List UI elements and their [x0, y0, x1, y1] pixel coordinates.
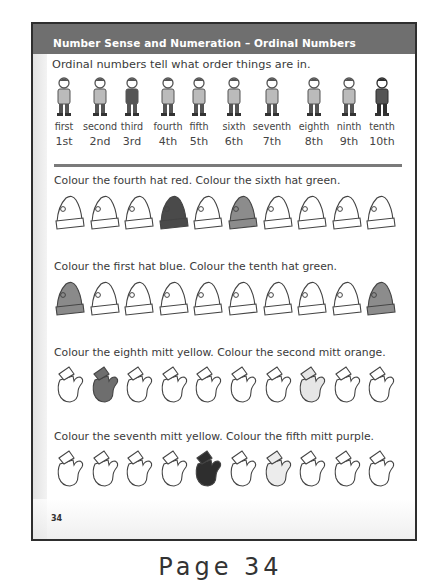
page-bottom-shade [33, 499, 415, 539]
hat-icon[interactable] [227, 194, 259, 232]
ordinal-item: fifth5th [181, 76, 217, 148]
mitt-icon[interactable] [123, 448, 155, 486]
plumber-icon [186, 76, 212, 118]
hat-icon[interactable] [192, 194, 224, 232]
ordinal-word: first [46, 121, 82, 132]
teacher-icon [119, 76, 145, 118]
mitt-icon[interactable] [192, 364, 224, 402]
mitt-row-2 [54, 448, 400, 488]
mechanic-icon [155, 76, 181, 118]
hat-icon[interactable] [158, 194, 190, 232]
instruction-2: Colour the first hat blue. Colour the te… [54, 260, 337, 273]
hat-row-1 [54, 194, 400, 234]
mitt-icon[interactable] [54, 448, 86, 486]
ordinal-item: first1st [46, 76, 82, 148]
hat-icon[interactable] [262, 194, 294, 232]
page-number: 34 [51, 514, 62, 523]
ordinal-word: ninth [331, 121, 367, 132]
mitt-icon[interactable] [262, 364, 294, 402]
construction-worker-icon [259, 76, 285, 118]
separator-line [54, 164, 402, 167]
hat-icon[interactable] [158, 280, 190, 318]
hat-icon[interactable] [123, 194, 155, 232]
ordinal-word: eighth [293, 121, 335, 132]
page-title: Number Sense and Numeration – Ordinal Nu… [53, 37, 356, 49]
mitt-icon[interactable] [192, 448, 224, 486]
ordinal-number: 6th [216, 135, 252, 148]
hat-icon[interactable] [54, 280, 86, 318]
ordinal-word: third [114, 121, 150, 132]
mitt-icon[interactable] [89, 448, 121, 486]
ordinal-number: 1st [46, 135, 82, 148]
hat-icon[interactable] [227, 280, 259, 318]
hat-icon[interactable] [365, 280, 397, 318]
hat-icon[interactable] [331, 280, 363, 318]
ordinal-item: eighth8th [293, 76, 335, 148]
mitt-icon[interactable] [262, 448, 294, 486]
mitt-row-1 [54, 364, 400, 404]
mitt-icon[interactable] [296, 364, 328, 402]
hat-icon[interactable] [89, 280, 121, 318]
hat-row-2 [54, 280, 400, 320]
instruction-4: Colour the seventh mitt yellow. Colour t… [54, 430, 374, 443]
firefighter-icon [369, 76, 395, 118]
ordinal-item: tenth10th [364, 76, 400, 148]
cleaner-icon [221, 76, 247, 118]
hat-icon[interactable] [296, 280, 328, 318]
mitt-icon[interactable] [123, 364, 155, 402]
mitt-icon[interactable] [365, 448, 397, 486]
ordinal-number: 10th [364, 135, 400, 148]
mitt-icon[interactable] [365, 364, 397, 402]
nurse-icon [336, 76, 362, 118]
mitt-icon[interactable] [331, 364, 363, 402]
ordinal-word: seventh [251, 121, 293, 132]
page-edge-shade [33, 24, 47, 539]
hat-icon[interactable] [54, 194, 86, 232]
ordinal-item: third3rd [114, 76, 150, 148]
worksheet-page: Number Sense and Numeration – Ordinal Nu… [31, 22, 417, 541]
intro-text: Ordinal numbers tell what order things a… [52, 58, 311, 71]
hat-icon[interactable] [89, 194, 121, 232]
ordinal-word: sixth [216, 121, 252, 132]
ordinal-word: fifth [181, 121, 217, 132]
doctor-icon [87, 76, 113, 118]
hat-icon[interactable] [296, 194, 328, 232]
hat-icon[interactable] [192, 280, 224, 318]
mitt-icon[interactable] [158, 364, 190, 402]
page-caption: Page 34 [0, 553, 441, 581]
ordinal-number: 3rd [114, 135, 150, 148]
hat-icon[interactable] [331, 194, 363, 232]
chef-icon [301, 76, 327, 118]
ordinal-figures-row: first1stsecond2ndthird3rdfourth4thfifth5… [50, 76, 410, 166]
ordinal-number: 8th [293, 135, 335, 148]
ordinal-item: seventh7th [251, 76, 293, 148]
hat-icon[interactable] [365, 194, 397, 232]
ordinal-word: tenth [364, 121, 400, 132]
hat-icon[interactable] [123, 280, 155, 318]
mitt-icon[interactable] [227, 364, 259, 402]
mitt-icon[interactable] [54, 364, 86, 402]
ordinal-number: 7th [251, 135, 293, 148]
astronaut-icon [51, 76, 77, 118]
mitt-icon[interactable] [158, 448, 190, 486]
ordinal-number: 9th [331, 135, 367, 148]
mitt-icon[interactable] [227, 448, 259, 486]
header-band: Number Sense and Numeration – Ordinal Nu… [33, 24, 415, 54]
mitt-icon[interactable] [296, 448, 328, 486]
mitt-icon[interactable] [331, 448, 363, 486]
ordinal-item: ninth9th [331, 76, 367, 148]
instruction-1: Colour the fourth hat red. Colour the si… [54, 174, 340, 187]
mitt-icon[interactable] [89, 364, 121, 402]
hat-icon[interactable] [262, 280, 294, 318]
ordinal-item: sixth6th [216, 76, 252, 148]
instruction-3: Colour the eighth mitt yellow. Colour th… [54, 346, 386, 359]
ordinal-number: 5th [181, 135, 217, 148]
